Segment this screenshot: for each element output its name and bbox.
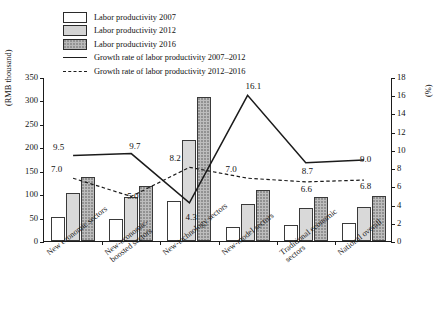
legend-label: Labor productivity 2007 bbox=[94, 13, 176, 22]
x-axis-tick bbox=[335, 241, 336, 245]
y-axis-right-unit-label: (%) bbox=[424, 84, 433, 97]
y-right-tick-label: 12 bbox=[397, 128, 406, 137]
data-label-growth-2007-2012: 9.5 bbox=[53, 143, 64, 152]
y-right-tick-label: 6 bbox=[397, 182, 401, 191]
legend-item-growth-rate-2007-2012: Growth rate of labor productivity 2007–2… bbox=[63, 52, 348, 64]
data-label-growth-2007-2012: 9.7 bbox=[129, 142, 140, 151]
chart-figure: Labor productivity 2007 Labor productivi… bbox=[0, 0, 442, 332]
data-label-growth-2012-2016: 6.6 bbox=[301, 185, 312, 194]
x-axis-tick bbox=[160, 241, 161, 245]
legend-label: Labor productivity 2016 bbox=[94, 40, 176, 49]
y-left-tick-label: 350 bbox=[25, 73, 38, 82]
x-axis-tick bbox=[277, 241, 278, 245]
data-label-growth-2012-2016: 7.0 bbox=[226, 165, 237, 174]
y-right-tick-label: 4 bbox=[397, 201, 401, 210]
legend-swatch-2012-icon bbox=[63, 25, 87, 36]
y-right-tick-label: 18 bbox=[397, 73, 406, 82]
legend-item-labor-productivity-2012: Labor productivity 2012 bbox=[63, 25, 348, 37]
data-label-growth-2012-2016: 7.0 bbox=[51, 165, 62, 174]
y-left-tick-label: 150 bbox=[25, 167, 38, 176]
data-label-growth-2007-2012: 4.3 bbox=[185, 213, 196, 222]
y-left-tick-label: 50 bbox=[29, 214, 38, 223]
y-axis-left-unit-label: (RMB thousand) bbox=[4, 49, 13, 106]
y-right-tick-label: 0 bbox=[397, 237, 401, 246]
y-right-tick bbox=[391, 242, 395, 243]
legend-item-labor-productivity-2016: Labor productivity 2016 bbox=[63, 38, 348, 50]
y-left-tick bbox=[40, 242, 44, 243]
x-axis-tick bbox=[219, 241, 220, 245]
y-left-tick-label: 0 bbox=[34, 237, 38, 246]
y-right-tick-label: 10 bbox=[397, 146, 406, 155]
data-label-growth-2012-2016: 6.8 bbox=[360, 182, 371, 191]
line-growth-2012-2016 bbox=[73, 167, 364, 196]
y-right-tick-label: 16 bbox=[397, 91, 406, 100]
legend-label: Growth rate of labor productivity 2007–2… bbox=[94, 53, 245, 62]
legend-dashed-line-icon bbox=[63, 67, 87, 76]
data-label-growth-2007-2012: 16.1 bbox=[246, 82, 262, 91]
chart-legend: Labor productivity 2007 Labor productivi… bbox=[63, 11, 348, 79]
data-label-growth-2007-2012: 8.7 bbox=[302, 167, 313, 176]
y-right-tick-label: 2 bbox=[397, 219, 401, 228]
data-label-growth-2012-2016: 8.2 bbox=[169, 154, 180, 163]
legend-label: Labor productivity 2012 bbox=[94, 26, 176, 35]
y-right-tick-label: 8 bbox=[397, 164, 401, 173]
legend-swatch-2016-icon bbox=[63, 39, 87, 50]
line-growth-2007-2012 bbox=[73, 95, 364, 203]
data-label-growth-2012-2016: 5.0 bbox=[127, 192, 138, 201]
legend-item-labor-productivity-2007: Labor productivity 2007 bbox=[63, 11, 348, 23]
y-right-tick-label: 14 bbox=[397, 109, 406, 118]
data-label-growth-2007-2012: 9.0 bbox=[360, 155, 371, 164]
y-left-tick-label: 100 bbox=[25, 190, 38, 199]
legend-label: Growth rate of labor productivity 2012–2… bbox=[94, 67, 245, 76]
y-left-tick-label: 300 bbox=[25, 96, 38, 105]
legend-item-growth-rate-2012-2016: Growth rate of labor productivity 2012–2… bbox=[63, 65, 348, 77]
legend-solid-line-icon bbox=[63, 53, 87, 62]
x-axis-tick bbox=[102, 241, 103, 245]
y-left-tick-label: 250 bbox=[25, 120, 38, 129]
y-left-tick-label: 200 bbox=[25, 143, 38, 152]
legend-swatch-2007-icon bbox=[63, 12, 87, 23]
